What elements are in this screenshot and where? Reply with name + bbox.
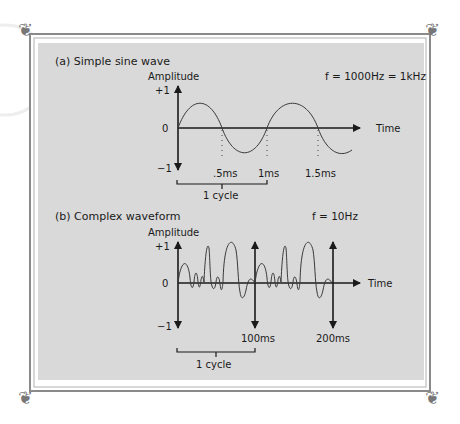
corner-ornament-tr: ❦ (425, 19, 440, 40)
panel-b-tick-100ms: 100ms (241, 333, 275, 344)
panel-a-plus-one: +1 (155, 85, 170, 96)
panel-b-zero: 0 (162, 278, 168, 289)
panel-b-minus-one: −1 (157, 321, 172, 332)
panel-a-time-label: Time (375, 123, 400, 134)
panel-b-frequency: f = 10Hz (312, 210, 358, 222)
corner-ornament-bl: ❦ (18, 387, 33, 408)
panel-b-tick-200ms: 200ms (316, 333, 350, 344)
panel-a-frequency: f = 1000Hz = 1kHz (325, 70, 426, 82)
panel-b-plus-one: +1 (155, 241, 170, 252)
panel-a-tick-05ms: .5ms (213, 168, 238, 179)
panel-a-tick-1ms: 1ms (258, 168, 279, 179)
waveform-diagram: ❦ ❦ ❦ ❦ (a) Simple sine wave Amplitude f… (0, 0, 460, 424)
panel-a-cycle-label: 1 cycle (203, 190, 238, 201)
panel-a-amplitude-label: Amplitude (148, 71, 199, 82)
panel-a-zero: 0 (162, 123, 168, 134)
panel-b-amplitude-label: Amplitude (148, 227, 199, 238)
corner-ornament-tl: ❦ (18, 19, 33, 40)
panel-a-tick-15ms: 1.5ms (305, 168, 336, 179)
panel-b-time-label: Time (367, 278, 392, 289)
panel-b-title: (b) Complex waveform (55, 210, 180, 223)
corner-ornament-br: ❦ (425, 387, 440, 408)
panel-b-cycle-label: 1 cycle (196, 359, 231, 370)
panel-a-minus-one: −1 (157, 163, 172, 174)
panel-a-title: (a) Simple sine wave (55, 55, 170, 68)
